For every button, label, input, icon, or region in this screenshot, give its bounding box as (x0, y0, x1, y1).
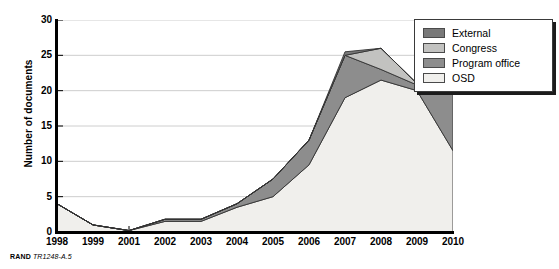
x-tick-label: 2001 (118, 236, 140, 248)
legend-label: External (452, 28, 491, 39)
area-series (57, 80, 453, 232)
x-tick-label: 2005 (262, 236, 284, 248)
stacked-area-svg (57, 20, 453, 232)
x-tick-label: 2002 (154, 236, 176, 248)
y-tick-label: 20 (26, 86, 52, 96)
y-tick-label: 15 (26, 121, 52, 131)
y-tick-label: 10 (26, 156, 52, 166)
x-tick-label: 1998 (46, 236, 68, 248)
legend-label: Congress (452, 43, 497, 54)
x-axis-line (55, 231, 454, 234)
x-tick-label: 1999 (82, 236, 104, 248)
legend: ExternalCongressProgram officeOSD (414, 19, 553, 92)
legend-swatch (423, 73, 445, 83)
y-tick-label: 5 (26, 192, 52, 202)
y-axis-tick-labels: 051015202530 (22, 0, 52, 269)
x-tick-label: 2004 (226, 236, 248, 248)
x-tick-label: 2007 (334, 236, 356, 248)
plot-area (57, 20, 453, 232)
legend-item: Congress (423, 41, 546, 55)
caption-publisher: RAND (10, 253, 31, 260)
x-tick-label: 2009 (406, 236, 428, 248)
y-axis-line (55, 19, 58, 233)
legend-swatch (423, 43, 445, 53)
legend-swatch (423, 58, 445, 68)
legend-label: Program office (452, 58, 520, 69)
source-caption: RAND TR1248-A.5 (10, 253, 72, 260)
legend-item: External (423, 26, 546, 40)
caption-code: TR1248-A.5 (33, 253, 72, 260)
y-tick-label: 30 (26, 15, 52, 25)
figure: Number of documents 051015202530 1998199… (0, 0, 559, 269)
x-axis-tick-labels: 1998199920012002200320042005200620072008… (57, 236, 453, 252)
legend-label: OSD (452, 73, 475, 84)
x-tick-label: 2006 (298, 236, 320, 248)
legend-item: Program office (423, 56, 546, 70)
y-tick-label: 25 (26, 50, 52, 60)
legend-item: OSD (423, 71, 546, 85)
x-tick-label: 2010 (442, 236, 464, 248)
x-tick-label: 2008 (370, 236, 392, 248)
legend-swatch (423, 28, 445, 38)
x-tick-label: 2003 (190, 236, 212, 248)
